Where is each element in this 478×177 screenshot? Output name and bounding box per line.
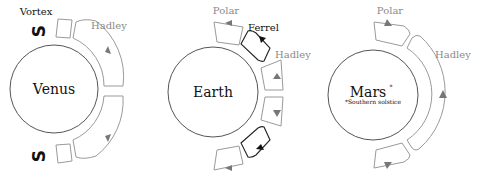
- venus-vortex-symbol-north: S: [29, 25, 49, 37]
- venus-vortex-cell-south: [56, 144, 72, 163]
- mars-polar-cell-south: [374, 143, 410, 168]
- earth-ferrel-cell-north: [241, 31, 270, 62]
- mars-note: *Southern solstice: [345, 98, 401, 105]
- mars-polar-north-arrow-icon: [384, 19, 392, 26]
- mars-polar-cell-north: [374, 22, 410, 46]
- earth-hadley-label: Hadley: [275, 49, 311, 60]
- earth-polar-cell-south: [214, 146, 243, 170]
- earth-ferrel-cell-south: [241, 127, 270, 158]
- mars-hadley-label: Hadley: [435, 49, 471, 60]
- earth-ferrel-label: Ferrel: [248, 22, 279, 33]
- mars-polar-label: Polar: [377, 5, 404, 16]
- venus-hadley-label: Hadley: [91, 20, 127, 31]
- venus-vortex-label: Vortex: [19, 6, 53, 17]
- mars-marker: *: [390, 83, 393, 90]
- circulation-diagram: Venus Vortex Hadley S S Earth: [0, 0, 478, 177]
- earth-polar-cell-north: [214, 22, 243, 45]
- earth-label: Earth: [193, 84, 233, 100]
- venus-vortex-cell-north: [56, 19, 72, 38]
- venus-panel: Venus Vortex Hadley S S: [10, 6, 127, 163]
- venus-label: Venus: [32, 81, 75, 97]
- earth-hadley-cell-north: [261, 60, 283, 90]
- mars-panel: Mars * *Southern solstice Polar Hadley: [328, 5, 471, 169]
- earth-panel: Earth Polar Ferrel Hadley: [168, 5, 311, 171]
- earth-polar-label: Polar: [213, 5, 240, 16]
- venus-vortex-symbol-south: S: [29, 150, 49, 162]
